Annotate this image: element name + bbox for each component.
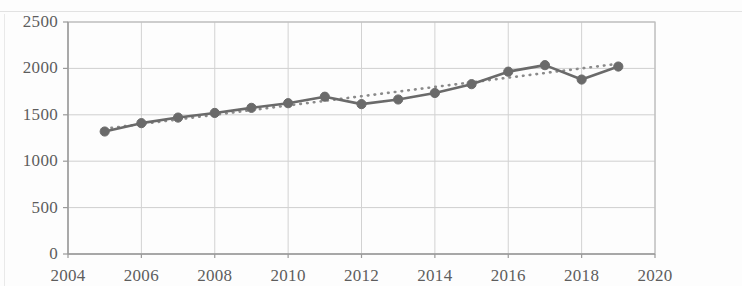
data-point-marker (504, 67, 513, 76)
x-axis-tick-label: 2004 (50, 266, 85, 286)
data-point-marker (320, 92, 329, 101)
data-point-marker (284, 99, 293, 108)
plot-area (0, 0, 742, 286)
line-chart: 05001000150020002500 2004200620082010201… (0, 0, 742, 286)
y-axis-tick-label: 1000 (23, 151, 58, 171)
gridlines (68, 22, 655, 254)
x-axis-tick-label: 2016 (491, 266, 526, 286)
y-axis-tick-label: 2500 (23, 12, 58, 32)
x-axis-tick-label: 2008 (197, 266, 232, 286)
x-axis-tick-label: 2012 (344, 266, 379, 286)
data-point-marker (467, 80, 476, 89)
data-point-marker (357, 100, 366, 109)
data-point-marker (614, 62, 623, 71)
data-point-marker (430, 88, 439, 97)
data-point-marker (210, 108, 219, 117)
y-axis-tick-label: 1500 (23, 105, 58, 125)
data-point-marker (100, 127, 109, 136)
plot-frame (63, 22, 655, 258)
data-point-marker (137, 119, 146, 128)
x-axis-tick-label: 2020 (637, 266, 672, 286)
data-point-marker (394, 95, 403, 104)
x-axis-tick-label: 2018 (564, 266, 599, 286)
y-axis-tick-label: 500 (32, 198, 58, 218)
y-axis-tick-label: 2000 (23, 58, 58, 78)
data-point-marker (540, 61, 549, 70)
data-point-marker (173, 113, 182, 122)
x-axis-tick-label: 2014 (417, 266, 452, 286)
y-axis-tick-label: 0 (49, 244, 58, 264)
data-point-marker (577, 75, 586, 84)
data-point-marker (247, 103, 256, 112)
x-axis-tick-label: 2006 (124, 266, 159, 286)
x-axis-tick-label: 2010 (271, 266, 306, 286)
